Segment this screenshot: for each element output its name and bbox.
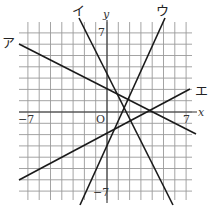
tick-x-neg-7: −7 (18, 113, 34, 126)
tick-y-pos-7: 7 (98, 26, 105, 39)
label-line-i: イ (72, 3, 85, 18)
origin-label: O (96, 113, 105, 126)
label-line-e: エ (195, 83, 208, 98)
coordinate-graph: x y O −7 7 7 −7 ア イ ウ エ (0, 0, 216, 209)
label-line-a: ア (2, 35, 15, 50)
x-axis-label: x (198, 106, 205, 119)
label-line-u: ウ (156, 3, 169, 18)
tick-x-pos-7: 7 (183, 113, 190, 126)
grid (19, 22, 192, 200)
tick-y-neg-7: −7 (93, 186, 109, 199)
y-axis-label: y (102, 8, 110, 21)
